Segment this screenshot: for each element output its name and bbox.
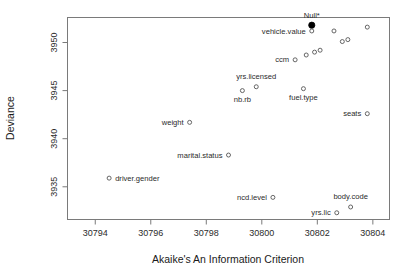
x-tick-label: 30794	[83, 228, 108, 238]
y-tick-label: 3940	[50, 129, 60, 149]
data-point-null-filled	[309, 22, 315, 28]
data-point-label: ccm	[275, 55, 289, 64]
data-point-label: weight	[161, 118, 185, 127]
data-point-label: ncd.level	[237, 193, 267, 202]
data-point-label: driver.gender	[115, 174, 160, 183]
data-point-label: Null*	[304, 11, 320, 20]
y-tick-label: 3945	[50, 81, 60, 101]
chart-canvas: 307943079630798308003080230804 393539403…	[0, 0, 411, 271]
data-point-label: body.code	[333, 192, 367, 201]
data-point-label: fuel.type	[289, 93, 318, 102]
x-tick-label: 30802	[305, 228, 330, 238]
data-point-label: seats	[343, 109, 361, 118]
scatter-plot-figure: 307943079630798308003080230804 393539403…	[0, 0, 411, 271]
x-tick-label: 30796	[138, 228, 163, 238]
data-point-label: yrs.lic	[311, 208, 331, 217]
y-axis-title: Deviance	[4, 96, 16, 140]
data-point-label: nb.rb	[234, 95, 251, 104]
data-point-label: yrs.licensed	[236, 72, 276, 81]
data-point-label: vehicle.value	[262, 27, 306, 36]
data-point-label: marital.status	[177, 151, 222, 160]
y-tick-label: 3935	[50, 177, 60, 197]
y-tick-label: 3950	[50, 32, 60, 52]
x-tick-label: 30798	[194, 228, 219, 238]
x-tick-label: 30800	[249, 228, 274, 238]
x-axis-title: Akaike's An Information Criterion	[152, 253, 304, 265]
x-tick-label: 30804	[360, 228, 385, 238]
